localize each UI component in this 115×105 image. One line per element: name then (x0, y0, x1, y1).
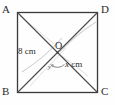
segment-length-label-8cm: 8 cm (18, 47, 36, 56)
vertex-label-d: D (101, 4, 109, 15)
geometry-figure: A D B C O 8 cm x cm y° (0, 0, 115, 105)
center-label-o: O (55, 41, 62, 51)
center-point-O (57, 52, 59, 54)
segment-unit-cm: cm (71, 59, 82, 69)
vertex-label-b: B (2, 86, 9, 97)
segment-length-label-x-cm: x cm (65, 60, 82, 69)
vertex-label-a: A (2, 4, 10, 15)
vertex-label-c: C (101, 86, 108, 97)
angle-label-y-degrees: y° (48, 64, 54, 71)
segment-variable-x: x (65, 59, 69, 69)
